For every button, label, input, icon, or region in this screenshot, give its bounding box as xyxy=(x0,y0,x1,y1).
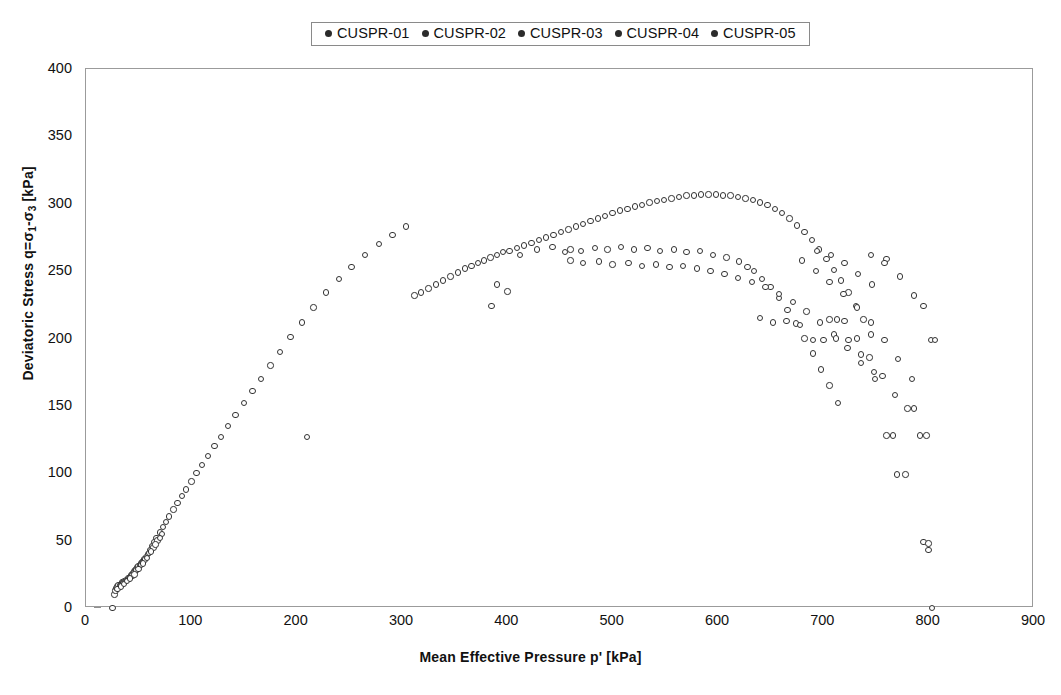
data-point xyxy=(521,242,527,248)
data-point xyxy=(770,319,776,325)
data-point xyxy=(348,264,354,270)
y-tick-label: 50 xyxy=(26,532,72,548)
data-point xyxy=(580,260,586,266)
data-point xyxy=(694,265,700,271)
data-point xyxy=(287,334,293,340)
x-tick-label: 200 xyxy=(266,612,326,628)
data-point xyxy=(249,388,255,394)
data-point xyxy=(813,268,819,274)
data-point xyxy=(840,291,846,297)
data-point xyxy=(872,376,878,382)
scatter-points-layer xyxy=(86,69,1032,606)
data-point xyxy=(144,555,150,561)
legend-marker-icon xyxy=(422,30,429,37)
data-point xyxy=(506,248,512,254)
data-point xyxy=(639,202,645,208)
data-point xyxy=(826,382,832,388)
data-point xyxy=(801,229,807,235)
data-point xyxy=(587,218,593,224)
y-axis-title: Deviatoric Stress q=σ1-σ3 [kPa] xyxy=(20,123,39,423)
data-point xyxy=(661,197,667,203)
legend-entry-cuspr-05[interactable]: CUSPR-05 xyxy=(705,26,802,41)
data-point xyxy=(225,423,231,429)
data-point xyxy=(797,322,803,328)
data-point xyxy=(911,405,917,411)
data-point xyxy=(751,268,757,274)
data-point xyxy=(157,535,163,541)
data-point xyxy=(433,281,439,287)
data-point xyxy=(666,264,672,270)
data-point xyxy=(602,213,608,219)
data-point xyxy=(845,337,851,343)
data-point xyxy=(676,194,682,200)
data-point xyxy=(879,373,885,379)
data-point xyxy=(494,252,500,258)
data-point xyxy=(923,432,929,438)
data-point xyxy=(757,199,763,205)
x-tick-label: 500 xyxy=(582,612,642,628)
data-point xyxy=(543,234,549,240)
data-point xyxy=(683,249,689,255)
data-point xyxy=(803,308,809,314)
data-point xyxy=(625,260,631,266)
data-point xyxy=(440,277,446,283)
data-point xyxy=(833,335,839,341)
x-axis-ticks: 0100200300400500600700800900 xyxy=(85,612,1033,642)
data-point xyxy=(558,229,564,235)
data-point xyxy=(639,263,645,269)
data-point xyxy=(517,252,523,258)
data-point xyxy=(897,273,903,279)
data-point xyxy=(534,246,540,252)
data-point xyxy=(844,345,850,351)
data-point xyxy=(749,279,755,285)
data-point xyxy=(828,252,834,258)
data-point xyxy=(241,400,247,406)
data-point xyxy=(790,299,796,305)
legend-entry-cuspr-02[interactable]: CUSPR-02 xyxy=(416,26,513,41)
data-point xyxy=(929,605,935,611)
legend-label: CUSPR-04 xyxy=(627,26,700,41)
data-point xyxy=(258,376,264,382)
data-point xyxy=(925,540,931,546)
plot-area xyxy=(85,68,1033,607)
data-point xyxy=(299,319,305,325)
data-point xyxy=(904,405,910,411)
data-point xyxy=(854,304,860,310)
data-point xyxy=(592,245,598,251)
data-point xyxy=(140,560,146,566)
data-point xyxy=(854,335,860,341)
data-point xyxy=(826,279,832,285)
data-point xyxy=(609,210,615,216)
x-tick-label: 100 xyxy=(160,612,220,628)
data-point xyxy=(578,248,584,254)
data-point xyxy=(618,244,624,250)
data-point xyxy=(697,248,703,254)
data-point xyxy=(710,252,716,258)
data-point xyxy=(680,263,686,269)
data-point xyxy=(668,195,674,201)
data-point xyxy=(653,261,659,267)
data-point xyxy=(573,223,579,229)
data-point xyxy=(580,221,586,227)
data-point xyxy=(376,241,382,247)
legend-entry-cuspr-03[interactable]: CUSPR-03 xyxy=(512,26,609,41)
data-point xyxy=(799,257,805,263)
data-point xyxy=(881,337,887,343)
data-point xyxy=(131,571,137,577)
data-point xyxy=(772,206,778,212)
data-point xyxy=(750,197,756,203)
data-point xyxy=(866,354,872,360)
data-point xyxy=(657,248,663,254)
legend-entry-cuspr-04[interactable]: CUSPR-04 xyxy=(609,26,706,41)
data-point xyxy=(152,541,158,547)
data-point xyxy=(447,273,453,279)
legend-entry-cuspr-01[interactable]: CUSPR-01 xyxy=(319,26,416,41)
data-point xyxy=(902,471,908,477)
legend-marker-icon xyxy=(615,30,622,37)
data-point xyxy=(727,192,733,198)
legend-marker-icon xyxy=(325,30,332,37)
data-point xyxy=(820,337,826,343)
data-point xyxy=(890,432,896,438)
data-point xyxy=(148,548,154,554)
data-point xyxy=(759,276,765,282)
